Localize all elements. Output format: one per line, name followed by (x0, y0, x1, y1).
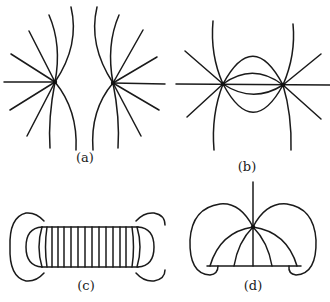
panel-b-label: (b) (238, 159, 256, 174)
panel-d-diagram (190, 182, 316, 275)
panel-c-diagram (10, 213, 165, 281)
panel-c-label: (c) (77, 278, 94, 293)
panel-d-label: (d) (244, 278, 262, 293)
field-lines-figure: (a) (b) (0, 0, 330, 302)
panel-a-diagram (4, 7, 165, 150)
panel-b-diagram (176, 21, 330, 150)
panel-a-label: (a) (76, 150, 94, 165)
